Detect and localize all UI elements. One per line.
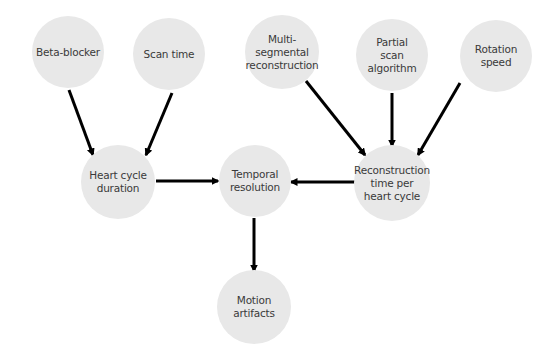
causal-diagram: Beta-blocker Scan time Multi- segmental … bbox=[0, 0, 560, 354]
node-beta-blocker: Beta-blocker bbox=[32, 16, 104, 88]
arrow-rotation-speed-to-reconstruction-time bbox=[418, 83, 460, 155]
node-reconstruction-time-per-heart-cycle: Reconstruction time per heart cycle bbox=[354, 145, 430, 221]
node-scan-time: Scan time bbox=[133, 18, 205, 90]
node-label: Partial scan algorithm bbox=[368, 36, 417, 75]
arrow-multi-segmental-to-reconstruction-time bbox=[306, 81, 365, 155]
arrow-scan-time-to-heart-cycle bbox=[146, 93, 172, 155]
node-partial-scan-algorithm: Partial scan algorithm bbox=[356, 19, 428, 91]
node-label: Temporal resolution bbox=[230, 168, 280, 194]
node-label: Beta-blocker bbox=[36, 46, 100, 59]
node-heart-cycle-duration: Heart cycle duration bbox=[81, 145, 155, 219]
node-label: Rotation speed bbox=[475, 43, 517, 69]
node-label: Heart cycle duration bbox=[89, 169, 147, 195]
node-label: Scan time bbox=[144, 48, 195, 61]
arrow-beta-blocker-to-heart-cycle bbox=[69, 90, 93, 155]
node-motion-artifacts: Motion artifacts bbox=[217, 270, 291, 344]
node-temporal-resolution: Temporal resolution bbox=[219, 145, 291, 217]
node-rotation-speed: Rotation speed bbox=[460, 20, 532, 92]
node-label: Multi- segmental reconstruction bbox=[245, 33, 318, 72]
node-label: Reconstruction time per heart cycle bbox=[354, 164, 430, 203]
node-multi-segmental-reconstruction: Multi- segmental reconstruction bbox=[245, 15, 319, 89]
node-label: Motion artifacts bbox=[233, 294, 274, 320]
